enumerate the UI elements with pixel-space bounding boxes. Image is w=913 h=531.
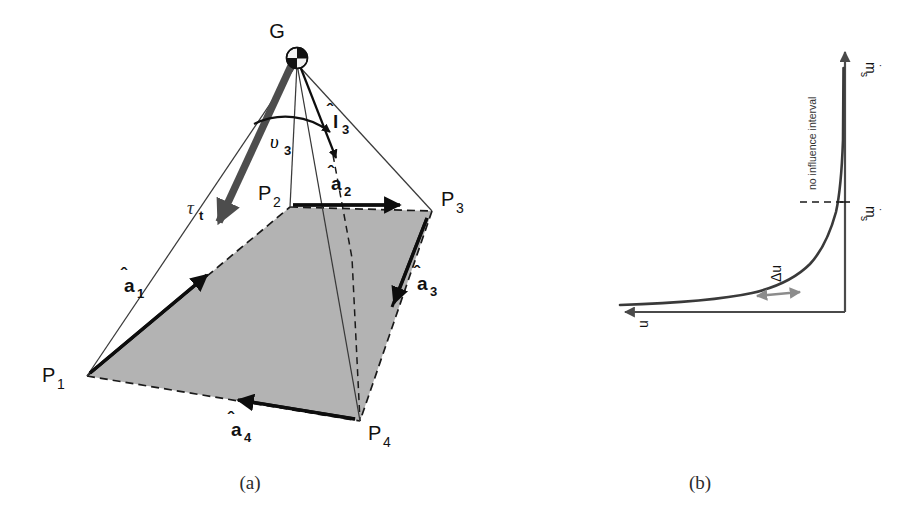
delta-u-arrow <box>757 292 800 296</box>
center-of-mass-marker <box>286 48 308 70</box>
svg-text:3: 3 <box>430 284 437 299</box>
figure-canvas: G P 1 P 2 P 3 P 4 a ̂ 1 a ̂ 2 a <box>0 0 913 531</box>
vector-label-a2: a ̂ 2 <box>327 165 351 199</box>
overdot-threshold: · <box>875 208 886 211</box>
svg-text:P: P <box>368 422 381 444</box>
vector-label-a4: a ̂ 4 <box>227 411 252 445</box>
svg-text:4: 4 <box>383 434 391 450</box>
svg-text:a: a <box>417 273 428 294</box>
vector-label-tau-t: τ t <box>187 197 204 223</box>
svg-text:1: 1 <box>137 286 144 301</box>
svg-text:a: a <box>231 419 242 440</box>
threshold-label: m s · <box>859 206 886 221</box>
svg-text:3: 3 <box>456 200 464 216</box>
contact-polygon-fill <box>87 207 432 421</box>
angle-label-psi3: υ 3 <box>270 131 291 158</box>
svg-text:υ: υ <box>270 131 279 152</box>
hat-accent-a1: ̂ <box>120 267 128 270</box>
svg-text:3: 3 <box>284 143 291 158</box>
svg-text:a: a <box>331 173 342 194</box>
svg-text:s: s <box>859 216 870 221</box>
apex-label-G: G <box>269 20 285 42</box>
svg-text:t: t <box>199 208 204 223</box>
figure-root: G P 1 P 2 P 3 P 4 a ̂ 1 a ̂ 2 a <box>0 0 913 531</box>
caption-b: (b) <box>689 472 711 494</box>
svg-text:P: P <box>441 188 454 210</box>
svg-text:P: P <box>258 182 271 204</box>
hat-accent-a2: ̂ <box>327 165 335 168</box>
panel-a-group: G P 1 P 2 P 3 P 4 a ̂ 1 a ̂ 2 a <box>42 20 464 450</box>
hat-accent-a4: ̂ <box>227 411 235 414</box>
vector-label-a1: a ̂ 1 <box>120 267 144 301</box>
svg-text:1: 1 <box>57 376 65 392</box>
overdot-top: · <box>875 64 886 67</box>
svg-text:a: a <box>124 275 135 296</box>
vertex-label-p2: P 2 <box>258 182 281 210</box>
svg-text:s: s <box>859 72 870 77</box>
axis-horizontal-label: u <box>635 320 651 328</box>
vertex-label-p3: P 3 <box>441 188 464 216</box>
caption-a: (a) <box>239 472 260 494</box>
axis-vertical-label: m s · <box>859 62 886 77</box>
svg-text:P: P <box>42 364 55 386</box>
svg-text:τ: τ <box>187 197 195 218</box>
svg-text:l: l <box>333 111 338 132</box>
vector-label-a3: a ̂ 3 <box>413 265 437 299</box>
delta-u-label: Δu <box>768 265 784 282</box>
vertex-label-p4: P 4 <box>368 422 391 450</box>
svg-text:3: 3 <box>342 122 349 137</box>
svg-text:2: 2 <box>273 194 281 210</box>
panel-b-group: m s · m s · no influence interval Δu u <box>620 52 886 328</box>
no-influence-interval-label: no influence interval <box>806 97 818 190</box>
vertex-label-p1: P 1 <box>42 364 65 392</box>
svg-text:2: 2 <box>344 184 351 199</box>
svg-text:4: 4 <box>244 430 252 445</box>
